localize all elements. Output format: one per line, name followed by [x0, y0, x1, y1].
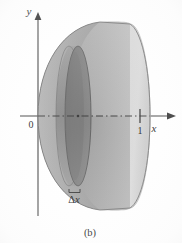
- paraboloid-solid-diagram: x y 0 1 Δx (b): [0, 0, 182, 243]
- figure-container: x y 0 1 Δx (b): [0, 0, 182, 243]
- paper-vignette-overlay: [0, 0, 182, 243]
